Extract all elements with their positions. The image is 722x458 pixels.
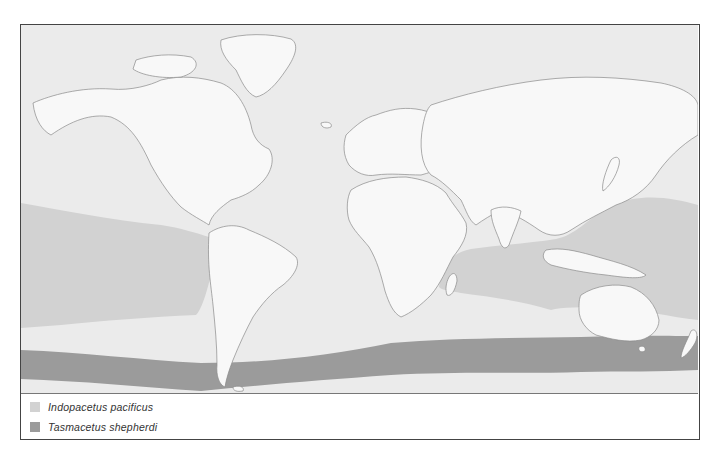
land-tasmania: [639, 346, 645, 352]
land-south-georgia: [233, 386, 243, 391]
world-map-svg: [21, 25, 698, 393]
legend-swatch-dark: [30, 422, 40, 432]
legend-label: Tasmacetus shepherdi: [48, 421, 157, 433]
world-map: [21, 25, 698, 394]
legend-swatch-light: [30, 402, 40, 412]
legend-item-tasmacetus: Tasmacetus shepherdi: [30, 421, 157, 433]
legend-item-indopacetus: Indopacetus pacificus: [30, 401, 153, 413]
legend-label: Indopacetus pacificus: [48, 401, 153, 413]
map-frame: Indopacetus pacificus Tasmacetus shepher…: [20, 24, 700, 440]
